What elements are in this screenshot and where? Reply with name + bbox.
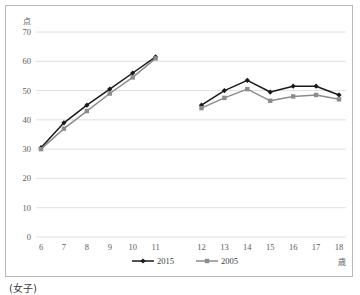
y-axis-tick-label: 40 (23, 115, 32, 125)
x-axis-tick-label: 7 (62, 242, 66, 252)
y-axis-tick-label: 10 (23, 203, 32, 213)
x-axis-tick-label: 16 (289, 242, 298, 252)
data-point-marker (85, 109, 89, 113)
y-axis-tick-label: 60 (23, 56, 32, 66)
data-point-marker (313, 84, 318, 89)
data-point-marker (337, 97, 341, 101)
y-axis-tick-label: 0 (27, 232, 31, 242)
data-point-marker (291, 84, 296, 89)
data-point-marker (108, 91, 112, 95)
x-axis-tick-label: 9 (108, 242, 112, 252)
x-axis-tick-label: 10 (128, 242, 137, 252)
series-line-2005 (41, 58, 156, 149)
y-axis-tick-label: 20 (23, 173, 32, 183)
y-axis-tick-label: 70 (23, 27, 32, 37)
data-point-marker (199, 106, 203, 110)
figure-frame: 010203040506070点6789101112131415161718歳2… (5, 5, 353, 277)
x-axis-unit-label: 歳 (338, 257, 346, 267)
x-axis-tick-label: 8 (85, 242, 89, 252)
x-axis-tick-label: 15 (266, 242, 275, 252)
data-point-marker (153, 56, 157, 60)
x-axis-tick-label: 12 (197, 242, 206, 252)
data-point-marker (130, 75, 134, 79)
x-axis-tick-label: 17 (312, 242, 321, 252)
data-point-marker (268, 99, 272, 103)
data-point-marker (291, 94, 295, 98)
x-axis-tick-label: 18 (335, 242, 344, 252)
data-point-marker (314, 93, 318, 97)
legend-label-2005: 2005 (221, 256, 238, 266)
data-point-marker (245, 78, 250, 83)
legend-label-2015: 2015 (157, 256, 174, 266)
y-axis-tick-label: 30 (23, 144, 32, 154)
y-axis-unit-label: 点 (23, 17, 31, 26)
line-chart: 010203040506070点6789101112131415161718歳2… (6, 6, 354, 278)
data-point-marker (39, 147, 43, 151)
chart-area: 010203040506070点6789101112131415161718歳2… (6, 6, 354, 278)
data-point-marker (336, 92, 341, 97)
x-axis-tick-label: 14 (243, 242, 252, 252)
data-point-marker (222, 96, 226, 100)
y-axis-tick-label: 50 (23, 86, 32, 96)
data-point-marker (245, 87, 249, 91)
x-axis-tick-label: 13 (220, 242, 229, 252)
data-point-marker (205, 259, 209, 263)
figure-caption: (女子) (9, 280, 37, 295)
x-axis-tick-label: 11 (152, 242, 160, 252)
x-axis-tick-label: 6 (39, 242, 43, 252)
data-point-marker (62, 126, 66, 130)
data-point-marker (140, 258, 145, 263)
